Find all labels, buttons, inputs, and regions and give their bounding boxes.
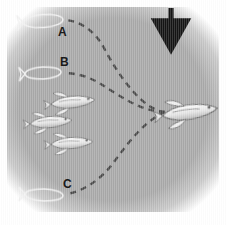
trajectory-label-a: A: [58, 26, 67, 38]
diagram-canvas: [0, 0, 226, 225]
figure-panel: A B C: [0, 0, 226, 225]
trajectory-label-b: B: [60, 56, 69, 68]
trajectory-label-c: C: [63, 178, 72, 190]
